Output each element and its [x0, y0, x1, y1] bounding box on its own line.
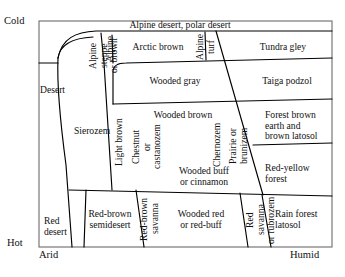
- zone-label-light-brown: Light brown: [114, 114, 125, 170]
- zone-label-red-brown-savanna: Red-brown savanna: [139, 195, 160, 243]
- zone-label-taiga-podzol: Taiga podzol: [248, 76, 326, 87]
- zone-label-chestnut-or-castanozem: Chestnut or castanozem: [131, 117, 163, 177]
- axis-label-cold: Cold: [4, 16, 24, 27]
- zone-label-red-yellow-forest: Red-yellow forest: [265, 163, 333, 184]
- zone-label-alpine-turf: Alpine turf: [195, 34, 216, 60]
- zone-label-red-desert: Red desert: [44, 216, 82, 237]
- zone-label-rain-forest-latosol: Rain forest latosol: [275, 209, 337, 230]
- axis-label-arid: Arid: [39, 250, 58, 261]
- zone-label-sierozem: Sierozem: [70, 126, 114, 137]
- zone-label-forest-brown-earth: Forest brown earth and brown latosol: [265, 110, 337, 142]
- axis-label-hot: Hot: [7, 238, 23, 249]
- zone-label-arctic-brown: Arctic brown: [122, 42, 194, 53]
- boundary-wooded-gray-lower: [113, 99, 332, 104]
- zone-label-alpine-polar-desert: Alpine desert, polar desert: [110, 20, 250, 31]
- zone-label-wooded-red-or-red-buff: Wooded red or red-buff: [165, 209, 237, 230]
- axis-label-humid: Humid: [290, 250, 319, 261]
- zone-label-prairie-or-brunizem: Prairie or brunizem: [228, 120, 249, 172]
- axis-label-desert: Desert: [40, 85, 65, 95]
- soil-climate-diagram: Cold Desert Hot Arid Humid Alpine desert…: [0, 0, 345, 277]
- zone-label-red-savanna-or-rubrozem: Red savanna or rubrozem: [245, 196, 277, 244]
- boundary-lower-horizontal: [69, 190, 332, 196]
- zone-label-wooded-buff-or-cinnamon: Wooded buff or cinnamon: [165, 166, 243, 187]
- boundary-red-yellow-forest-upper: [253, 143, 332, 145]
- zone-label-red-brown-semidesert: Red-brown semidesert: [82, 209, 138, 230]
- zone-label-tundra-gley: Tundra gley: [245, 42, 321, 53]
- zone-label-wooded-gray: Wooded gray: [130, 76, 220, 87]
- zone-label-alpine: Alpine: [105, 36, 116, 62]
